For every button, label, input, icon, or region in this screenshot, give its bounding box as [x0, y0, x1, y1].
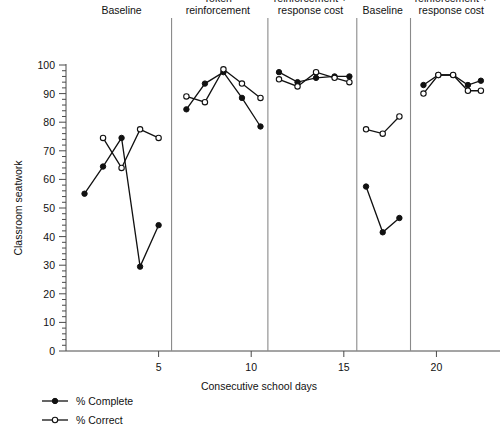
data-point-open	[100, 135, 105, 140]
x-tick-label: 10	[245, 361, 257, 373]
data-point-filled	[202, 81, 207, 86]
x-tick-label: 15	[338, 361, 350, 373]
y-tick-label: 20	[43, 288, 55, 300]
data-point-filled	[137, 264, 142, 269]
data-point-open	[436, 72, 441, 77]
phase-label: Baseline	[101, 4, 141, 16]
y-axis-title: Classroom seatwork	[12, 160, 24, 256]
phase-label: reinforcement	[186, 4, 250, 16]
data-point-filled	[119, 135, 124, 140]
y-tick-label: 40	[43, 231, 55, 243]
figure-container: 01020304050607080901005101520 BaselineTo…	[0, 0, 502, 443]
phase-label: response cost	[278, 4, 343, 16]
data-point-open	[313, 69, 318, 74]
data-point-open	[258, 95, 263, 100]
y-tick-label: 70	[43, 145, 55, 157]
data-point-filled	[478, 78, 483, 83]
legend-marker-filled	[52, 398, 57, 403]
data-point-open	[332, 75, 337, 80]
data-point-filled	[380, 230, 385, 235]
data-point-open	[137, 127, 142, 132]
y-tick-label: 100	[37, 59, 55, 71]
series-segment-line	[85, 138, 159, 267]
y-tick-label: 0	[49, 345, 55, 357]
data-point-open	[295, 84, 300, 89]
data-point-open	[239, 81, 244, 86]
data-point-open	[221, 67, 226, 72]
y-tick-label: 80	[43, 116, 55, 128]
x-tick-label: 5	[156, 361, 162, 373]
y-tick-label: 30	[43, 259, 55, 271]
y-tick-label: 90	[43, 88, 55, 100]
phase-label: response cost	[419, 4, 484, 16]
phase-labels-group: BaselineTokenreinforcementTokenreinforce…	[101, 0, 487, 16]
data-point-open	[380, 131, 385, 136]
data-point-open	[184, 94, 189, 99]
data-point-filled	[347, 74, 352, 79]
data-point-filled	[100, 164, 105, 169]
data-point-filled	[363, 184, 368, 189]
data-point-open	[397, 114, 402, 119]
y-tick-label: 50	[43, 202, 55, 214]
series-segment-line	[103, 129, 159, 168]
legend-item: % Correct	[42, 414, 123, 426]
data-point-filled	[258, 124, 263, 129]
legend-item: % Complete	[42, 395, 133, 407]
axes-group: 01020304050607080901005101520	[37, 59, 500, 373]
data-point-open	[119, 165, 124, 170]
data-point-open	[450, 72, 455, 77]
legend-label: % Complete	[76, 395, 133, 407]
data-point-open	[421, 91, 426, 96]
axis-titles-group: Classroom seatworkConsecutive school day…	[12, 160, 317, 392]
series--complete	[82, 69, 484, 269]
data-point-filled	[82, 191, 87, 196]
data-point-filled	[397, 215, 402, 220]
y-tick-label: 60	[43, 173, 55, 185]
legend-group: % Complete% Correct	[42, 395, 133, 426]
data-point-open	[347, 79, 352, 84]
series-segment-line	[366, 187, 399, 233]
data-point-filled	[313, 75, 318, 80]
legend-marker-open	[52, 417, 57, 422]
data-point-filled	[276, 69, 281, 74]
x-axis-title: Consecutive school days	[201, 380, 317, 392]
x-tick-label: 20	[431, 361, 443, 373]
data-point-filled	[156, 222, 161, 227]
legend-label: % Correct	[76, 414, 123, 426]
series--correct	[100, 67, 483, 171]
series-group	[82, 67, 484, 270]
data-point-open	[202, 99, 207, 104]
data-point-open	[478, 88, 483, 93]
data-point-open	[465, 88, 470, 93]
phase-label: Baseline	[363, 4, 403, 16]
data-point-filled	[184, 107, 189, 112]
y-tick-label: 10	[43, 316, 55, 328]
data-point-filled	[465, 82, 470, 87]
data-point-filled	[239, 95, 244, 100]
data-point-open	[363, 127, 368, 132]
data-point-open	[276, 77, 281, 82]
phase-dividers-group	[172, 18, 411, 351]
data-point-filled	[421, 82, 426, 87]
seatwork-line-chart: 01020304050607080901005101520 BaselineTo…	[0, 0, 502, 443]
data-point-open	[156, 135, 161, 140]
